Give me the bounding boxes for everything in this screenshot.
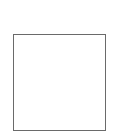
empty-square-frame — [13, 34, 106, 131]
canvas — [0, 0, 114, 134]
